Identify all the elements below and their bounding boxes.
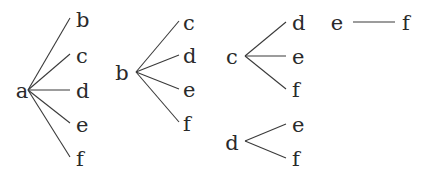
- leaf-label-b-d: d: [183, 44, 196, 68]
- leaf-label-a-e: e: [76, 113, 88, 137]
- branch-a-c: [28, 54, 70, 90]
- leaf-label-d-f: f: [292, 147, 302, 171]
- branch-d-e: [245, 124, 286, 141]
- root-label-a: a: [16, 79, 29, 103]
- branch-a-f: [28, 90, 70, 157]
- leaf-label-a-f: f: [76, 147, 86, 171]
- branch-c-f: [245, 56, 286, 89]
- branch-c-d: [245, 22, 286, 56]
- branch-d-f: [245, 141, 286, 158]
- root-label-d: d: [225, 131, 238, 155]
- leaf-label-a-c: c: [76, 44, 88, 68]
- leaf-label-b-c: c: [183, 11, 195, 35]
- tree-c: cdef: [226, 11, 305, 102]
- leaf-label-a-d: d: [76, 79, 89, 103]
- tree-b: bcdef: [115, 11, 196, 136]
- branch-a-b: [28, 18, 70, 90]
- tree-a: abcdef: [16, 8, 90, 171]
- root-label-c: c: [226, 45, 238, 69]
- leaf-label-e-f: f: [402, 11, 412, 35]
- root-label-b: b: [115, 61, 128, 85]
- tree-diagram: abcdefbcdefcdefdefef: [0, 0, 430, 176]
- leaf-label-d-e: e: [292, 113, 304, 137]
- leaf-label-c-d: d: [292, 11, 305, 35]
- leaf-label-c-e: e: [292, 45, 304, 69]
- leaf-label-b-f: f: [183, 112, 193, 136]
- leaf-label-b-e: e: [183, 78, 195, 102]
- branch-a-e: [28, 90, 70, 123]
- tree-e: ef: [331, 11, 412, 35]
- leaf-label-a-b: b: [76, 8, 89, 32]
- tree-d: def: [225, 113, 304, 171]
- root-label-e: e: [331, 11, 343, 35]
- branch-b-c: [136, 21, 179, 72]
- tree-diagram-canvas: abcdefbcdefcdefdefef: [0, 0, 430, 176]
- branch-b-f: [136, 72, 179, 122]
- branch-b-e: [136, 72, 179, 89]
- leaf-label-c-f: f: [292, 78, 302, 102]
